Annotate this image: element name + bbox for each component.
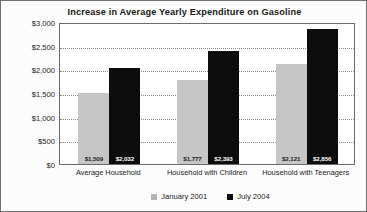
chart-image: Increase in Average Yearly Expenditure o… <box>0 0 367 212</box>
x-axis-label: Household with Teenagers <box>256 168 355 177</box>
bar: $2,393 <box>208 51 239 164</box>
bar-value-label: $2,121 <box>276 155 307 162</box>
y-axis-tick-label: $500 <box>1 137 55 146</box>
bar: $2,032 <box>109 68 140 164</box>
x-axis-label: Average Household <box>59 168 158 177</box>
y-axis-tick-label: $1,000 <box>1 113 55 122</box>
bar-value-label: $2,393 <box>208 155 239 162</box>
bar-value-label: $2,032 <box>109 155 140 162</box>
chart-legend: January 2001July 2004 <box>1 192 367 201</box>
y-axis-tick-label: $0 <box>1 161 55 170</box>
plot-area: $1,509$2,032$1,777$2,393$2,121$2,856 <box>59 23 355 165</box>
x-axis-label: Household with Children <box>158 168 257 177</box>
legend-swatch-icon <box>151 194 157 200</box>
bars-layer: $1,509$2,032$1,777$2,393$2,121$2,856 <box>60 24 354 164</box>
y-axis-tick-label: $3,000 <box>1 19 55 28</box>
legend-item: January 2001 <box>151 192 207 201</box>
legend-swatch-icon <box>227 194 233 200</box>
bar-value-label: $1,509 <box>78 155 109 162</box>
bar: $2,856 <box>307 29 338 164</box>
y-axis-tick-label: $2,000 <box>1 66 55 75</box>
chart-title: Increase in Average Yearly Expenditure o… <box>1 7 367 17</box>
y-axis-tick-label: $2,500 <box>1 42 55 51</box>
legend-item: July 2004 <box>227 192 270 201</box>
bar-value-label: $2,856 <box>307 155 338 162</box>
y-axis-tick-label: $1,500 <box>1 90 55 99</box>
legend-label: January 2001 <box>161 192 207 201</box>
x-axis-category-labels: Average HouseholdHousehold with Children… <box>59 168 355 182</box>
bar-value-label: $1,777 <box>177 155 208 162</box>
bar: $2,121 <box>276 64 307 164</box>
legend-label: July 2004 <box>237 192 270 201</box>
y-axis: $3,000$2,500$2,000$1,500$1,000$500$0 <box>1 23 55 165</box>
bar: $1,509 <box>78 93 109 164</box>
bar: $1,777 <box>177 80 208 164</box>
